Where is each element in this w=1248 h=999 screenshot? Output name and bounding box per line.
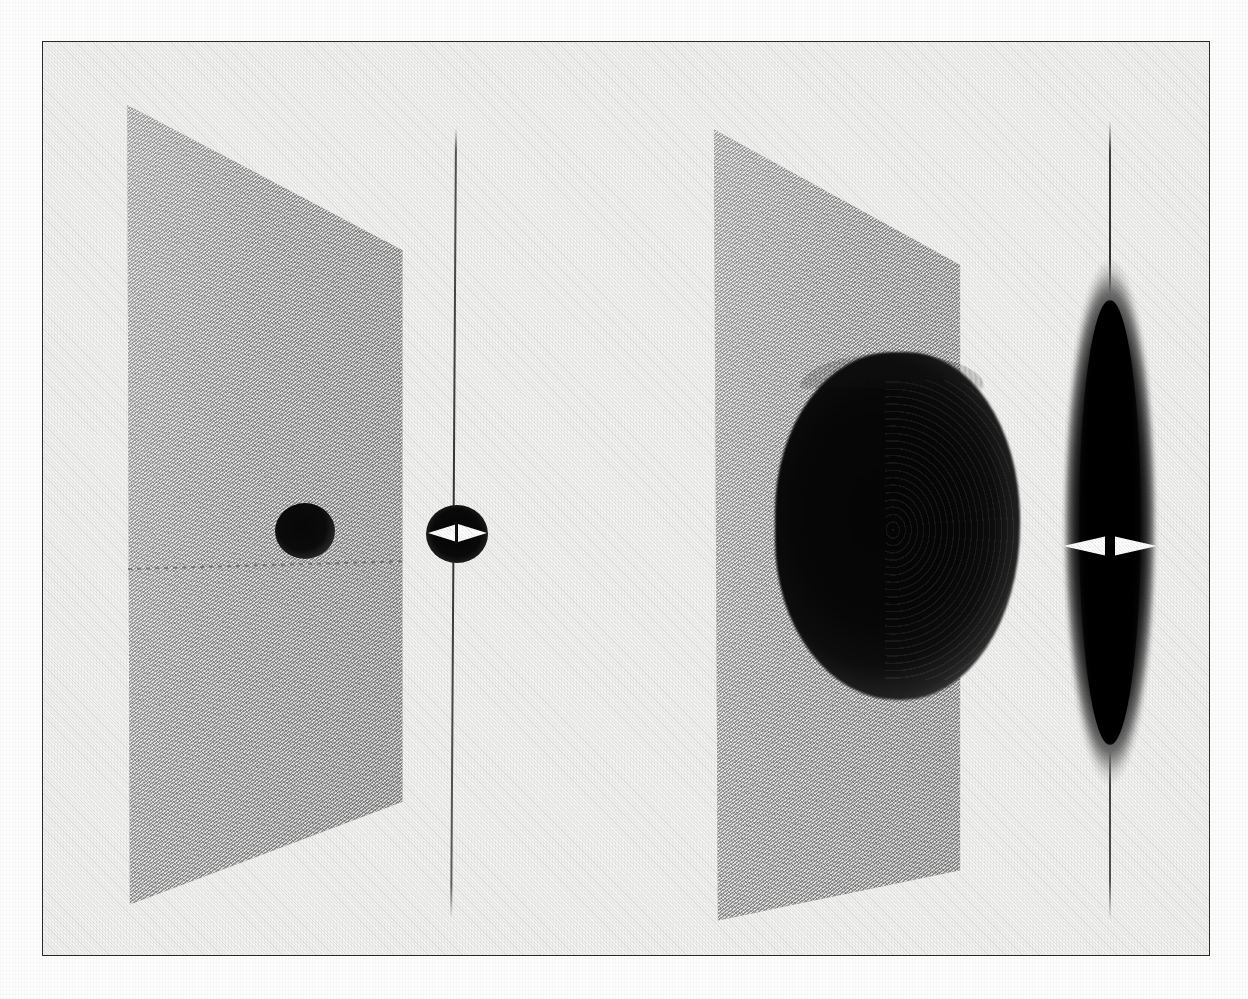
figure-page — [0, 0, 1248, 999]
panel-4-density-lens-core — [1079, 300, 1141, 745]
panel-3-concentric-rings — [885, 380, 1015, 680]
panel-2-width-marker-stem — [455, 522, 457, 544]
panel-1-density-blob — [275, 503, 335, 559]
